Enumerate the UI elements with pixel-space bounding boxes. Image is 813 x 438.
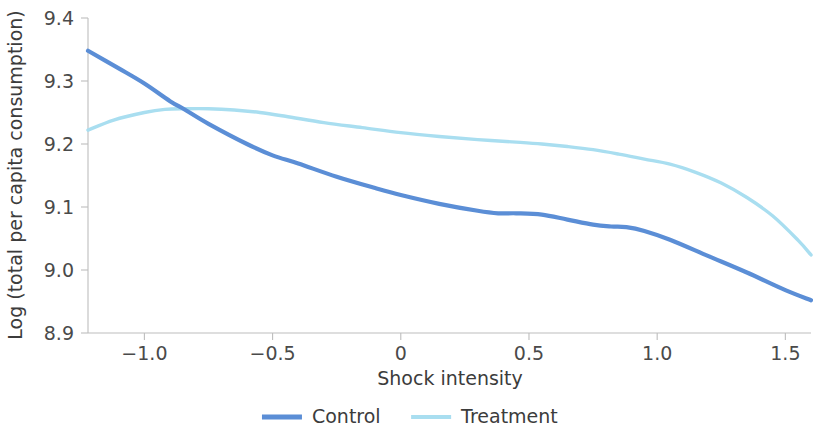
legend-label-control: Control: [312, 405, 381, 427]
chart-figure: 8.99.09.19.29.39.4 −1.0−0.500.51.01.5 Sh…: [0, 0, 813, 438]
y-tick-label: 9.1: [44, 196, 74, 218]
y-tick-label: 9.4: [44, 7, 74, 29]
y-axis-title: Log (total per capita consumption): [4, 10, 26, 339]
y-tick-label: 9.0: [44, 259, 74, 281]
x-tick-label: 0: [395, 342, 407, 364]
series-line-treatment: [88, 109, 811, 255]
legend-label-treatment: Treatment: [460, 405, 558, 427]
x-tick-label: 0.5: [514, 342, 544, 364]
y-tick-label: 9.3: [44, 70, 74, 92]
y-tick-label: 8.9: [44, 322, 74, 344]
x-tick-label: 1.0: [642, 342, 672, 364]
x-axis-title: Shock intensity: [377, 367, 523, 389]
y-axis-ticks: 8.99.09.19.29.39.4: [44, 7, 88, 344]
chart-legend: ControlTreatment: [262, 405, 558, 427]
line-chart: 8.99.09.19.29.39.4 −1.0−0.500.51.01.5 Sh…: [0, 0, 813, 438]
y-tick-label: 9.2: [44, 133, 74, 155]
x-tick-label: −1.0: [121, 342, 167, 364]
data-series-group: [88, 51, 811, 300]
x-tick-label: 1.5: [770, 342, 800, 364]
x-tick-label: −0.5: [250, 342, 296, 364]
x-axis-ticks: −1.0−0.500.51.01.5: [121, 333, 800, 364]
